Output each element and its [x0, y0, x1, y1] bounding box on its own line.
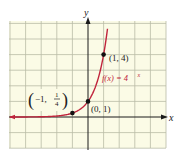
- fraction-denominator: 4: [55, 100, 59, 108]
- y-axis-label: y: [83, 7, 89, 18]
- label-text: −1,: [35, 94, 47, 104]
- point-label-0-1: (0, 1): [91, 104, 111, 114]
- fraction-numerator: 1: [55, 91, 59, 99]
- point-1-4: [101, 52, 106, 57]
- y-axis-arrow-icon: [86, 17, 91, 24]
- point-label-1-4: (1, 4): [109, 53, 129, 63]
- x-axis-label: x: [168, 112, 174, 123]
- point-neg1-quarter: [70, 111, 75, 116]
- function-label-exponent: x: [137, 72, 141, 78]
- point-label-neg1-quarter: ( −1, 1 4 ): [27, 89, 70, 111]
- function-label-main: f(x) = 4: [102, 73, 129, 83]
- point-0-1: [86, 99, 91, 104]
- exponential-graph: y x (1, 4) (0, 1) f(x) = 4 x ( −1, 1 4 ): [0, 0, 180, 156]
- paren-open: (: [28, 90, 34, 111]
- paren-close: ): [62, 90, 68, 111]
